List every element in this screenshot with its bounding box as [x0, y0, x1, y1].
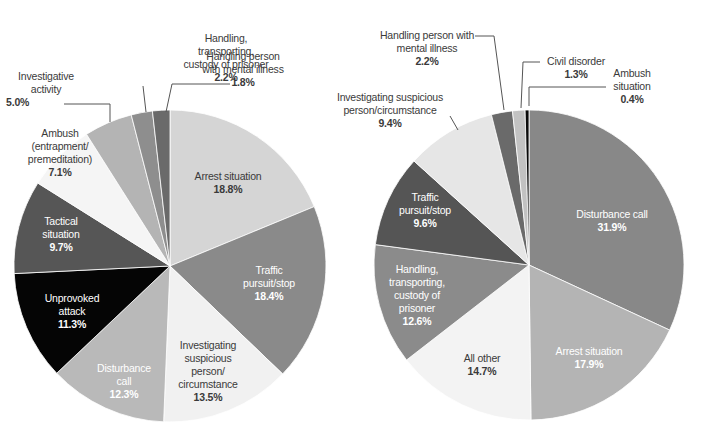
label-right-traffic: Traffic pursuit/stop 9.6%: [399, 191, 451, 230]
label-left-tactical: Tactical situation 9.7%: [42, 215, 79, 254]
label-left-ambush: Ambush (entrapment/ premeditation) 7.1%: [28, 127, 92, 179]
label-left-disturbance: Disturbance call 12.3%: [97, 362, 151, 401]
label-right-ambush: Ambush situation 0.4%: [613, 67, 650, 106]
label-left-investigative: Investigative activity 5.0%: [18, 70, 74, 109]
label-left-traffic: Traffic pursuit/stop 18.4%: [243, 264, 295, 303]
label-right-arrest: Arrest situation 17.9%: [556, 345, 623, 371]
label-right-investigating: Investigating suspicious person/circumst…: [337, 91, 443, 130]
label-left-unprovoked: Unprovoked attack 11.3%: [45, 292, 100, 331]
label-left-investigating: Investigating suspicious person/ circums…: [178, 339, 237, 404]
leader-prisoner: [143, 86, 146, 112]
leader-investigating-right: [450, 116, 458, 130]
label-right-disturbance: Disturbance call 31.9%: [576, 208, 648, 234]
label-right-prisoner: Handling, transporting, custody of priso…: [389, 263, 445, 328]
leader-ambush: [529, 87, 606, 106]
leader-civil: [521, 62, 540, 108]
label-left-mental: Handling person with mental illness 1.8%: [202, 50, 283, 89]
label-right-allother: All other 14.7%: [464, 352, 501, 378]
label-left-arrest: Arrest situation 18.8%: [195, 170, 262, 196]
label-right-mental: Handling person with mental illness 2.2%: [380, 29, 474, 68]
label-right-civil: Civil disorder 1.3%: [547, 55, 605, 81]
leader-mental-right: [475, 36, 504, 110]
